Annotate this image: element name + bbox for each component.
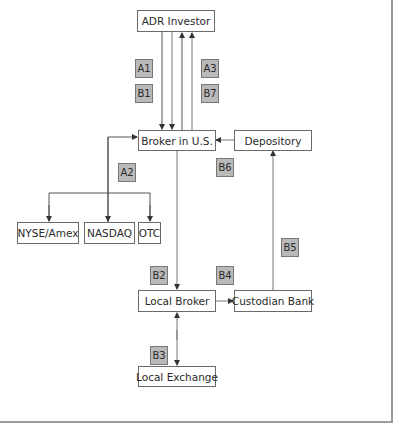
node-label: Broker in U.S. <box>141 135 212 147</box>
node-nyse-amex: NYSE/Amex <box>17 222 79 244</box>
step-tag-b3: B3 <box>150 346 168 365</box>
node-label: Depository <box>244 135 301 147</box>
node-depository: Depository <box>234 130 312 151</box>
node-label: NASDAQ <box>87 227 132 239</box>
step-tag-b5: B5 <box>281 238 299 257</box>
node-label: NYSE/Amex <box>18 227 79 239</box>
node-label: OTC <box>139 227 160 239</box>
node-label: ADR Investor <box>142 15 211 27</box>
step-tag-a2: A2 <box>118 163 136 182</box>
node-otc: OTC <box>138 222 161 244</box>
node-broker-us: Broker in U.S. <box>138 130 216 151</box>
step-tag-b6: B6 <box>216 158 234 177</box>
connector-lines <box>0 0 399 428</box>
node-label: Custodian Bank <box>232 295 314 307</box>
node-nasdaq: NASDAQ <box>84 222 135 244</box>
exchange-branch-line <box>49 193 150 221</box>
step-tag-b4: B4 <box>216 266 234 285</box>
step-tag-b2: B2 <box>150 266 168 285</box>
node-adr-investor: ADR Investor <box>137 10 215 32</box>
step-tag-b7: B7 <box>201 84 219 103</box>
node-label: Local Broker <box>145 295 210 307</box>
node-local-exchange: Local Exchange <box>138 366 216 387</box>
step-tag-a1: A1 <box>135 59 153 78</box>
node-label: Local Exchange <box>136 371 218 383</box>
step-tag-b1: B1 <box>135 84 153 103</box>
node-custodian-bank: Custodian Bank <box>234 290 312 312</box>
step-tag-a3: A3 <box>201 59 219 78</box>
node-local-broker: Local Broker <box>138 290 216 312</box>
